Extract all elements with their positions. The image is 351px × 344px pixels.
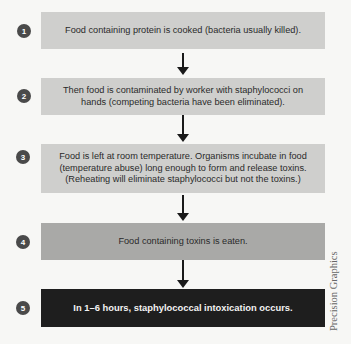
step-number-badge-2: 2 xyxy=(17,89,31,103)
step-number-badge-3: 3 xyxy=(16,150,30,164)
step-text-2: Then food is contaminated by worker with… xyxy=(55,85,311,108)
step-number-4: 4 xyxy=(21,238,25,247)
arrow-down-icon xyxy=(177,195,189,221)
step-text-1: Food containing protein is cooked (bacte… xyxy=(65,25,301,37)
step-text-3: Food is left at room temperature. Organi… xyxy=(57,151,309,186)
credit-watermark: Precision Graphics xyxy=(328,251,339,331)
step-box-5: In 1–6 hours, staphylococcal intoxicatio… xyxy=(41,289,325,327)
step-number-badge-4: 4 xyxy=(16,235,30,249)
arrow-down-icon xyxy=(177,260,189,288)
arrow-down-icon xyxy=(177,53,189,75)
step-box-4: Food containing toxins is eaten. xyxy=(41,223,325,260)
step-number-5: 5 xyxy=(21,304,25,313)
step-number-3: 3 xyxy=(21,153,25,162)
step-text-5: In 1–6 hours, staphylococcal intoxicatio… xyxy=(73,302,292,314)
step-box-3: Food is left at room temperature. Organi… xyxy=(41,144,325,193)
step-number-badge-1: 1 xyxy=(17,24,31,38)
step-box-1: Food containing protein is cooked (bacte… xyxy=(41,12,325,49)
step-text-4: Food containing toxins is eaten. xyxy=(118,236,247,248)
step-box-2: Then food is contaminated by worker with… xyxy=(41,78,325,115)
step-number-badge-5: 5 xyxy=(16,301,30,315)
step-number-2: 2 xyxy=(22,92,26,101)
arrow-down-icon xyxy=(177,115,189,142)
step-number-1: 1 xyxy=(22,27,26,36)
